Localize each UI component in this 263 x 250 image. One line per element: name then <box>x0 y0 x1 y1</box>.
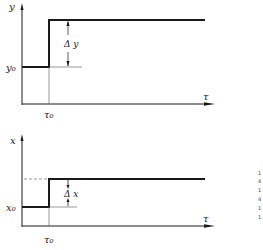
top-step-signal <box>22 20 205 67</box>
step-response-diagram: y y₀ Δ y τ τ₀ x x₀ Δ x τ τ₀ 1 4 <box>0 0 263 250</box>
bottom-x-axis-label-vertical: x <box>10 135 16 146</box>
top-y0-label: y₀ <box>5 62 16 73</box>
top-tau0-label: τ₀ <box>44 109 54 120</box>
bottom-tau0-label: τ₀ <box>44 234 54 245</box>
side-mark: 1 <box>258 187 261 193</box>
bottom-x0-label: x₀ <box>6 202 16 213</box>
side-mark: 4 <box>258 196 261 202</box>
bottom-y-axis-arrow-icon <box>21 134 24 141</box>
side-mark: 1 <box>258 205 261 211</box>
top-y-axis-label: y <box>8 1 15 12</box>
bottom-delta-label: Δ x <box>63 189 78 199</box>
side-marks: 1 4 1 4 1 1 <box>258 170 261 220</box>
top-x-axis-label: τ <box>203 91 209 102</box>
side-mark: 4 <box>258 178 261 184</box>
bottom-step-signal <box>22 179 205 207</box>
bottom-tau-axis-label: τ <box>203 213 209 224</box>
top-delta-arrow-up-icon <box>67 21 70 27</box>
side-mark: 1 <box>258 170 261 176</box>
bottom-x-axis-arrow-icon <box>204 224 215 227</box>
top-delta-label: Δ y <box>63 39 79 49</box>
top-x-axis-arrow-icon <box>204 102 215 105</box>
top-delta-arrow-down-icon <box>67 61 70 67</box>
bottom-plot: x x₀ Δ x τ τ₀ <box>6 134 215 245</box>
top-plot: y y₀ Δ y τ τ₀ <box>5 1 215 120</box>
top-y-axis-arrow-icon <box>21 3 24 10</box>
side-mark: 1 <box>258 214 261 220</box>
